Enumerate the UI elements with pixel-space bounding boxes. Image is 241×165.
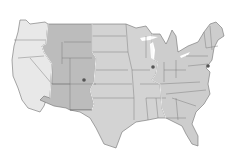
us-time-zone-map — [0, 0, 241, 165]
marker-denver — [82, 78, 86, 82]
marker-new-york — [206, 64, 210, 68]
marker-chicago — [151, 65, 155, 69]
